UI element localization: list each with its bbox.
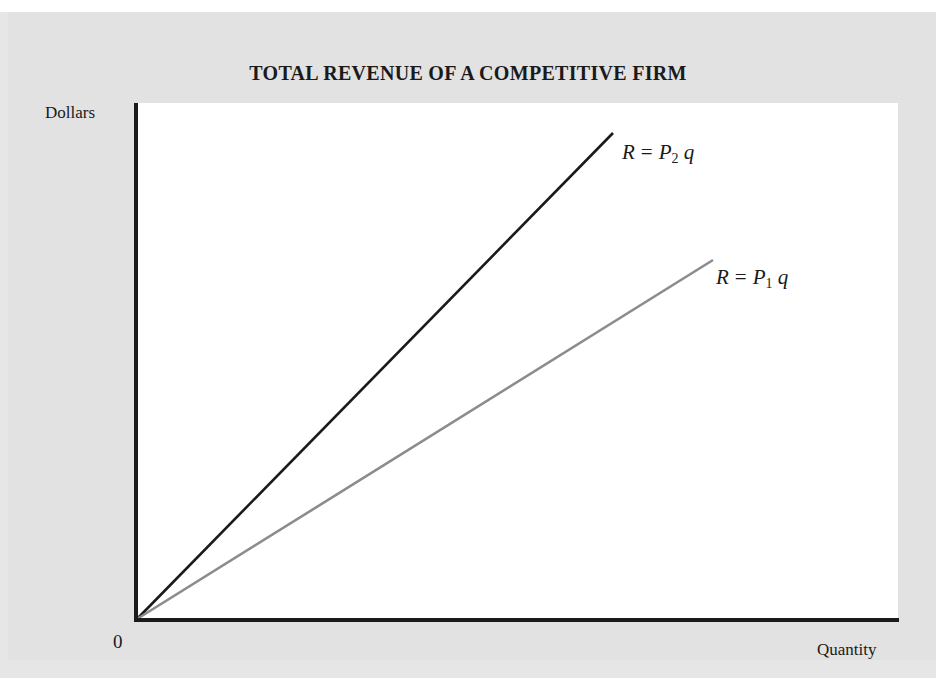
label-p2: R=P2 q <box>622 140 694 167</box>
label-p1-q: q <box>778 265 789 289</box>
label-p2-var: P <box>659 140 672 164</box>
caption-strip-cropped <box>0 678 936 691</box>
label-p1-sub: 1 <box>766 276 773 291</box>
revenue-line-p1 <box>137 260 713 619</box>
label-p1: R=P1 q <box>716 265 788 292</box>
label-p1-var: P <box>753 265 766 289</box>
label-p2-lhs: R <box>622 140 635 164</box>
label-p1-eq: = <box>729 265 753 289</box>
label-p2-sub: 2 <box>672 151 679 166</box>
chart-lines <box>0 0 936 691</box>
label-p2-q: q <box>684 140 695 164</box>
label-p2-eq: = <box>635 140 659 164</box>
revenue-line-p2 <box>137 133 613 619</box>
label-p1-lhs: R <box>716 265 729 289</box>
